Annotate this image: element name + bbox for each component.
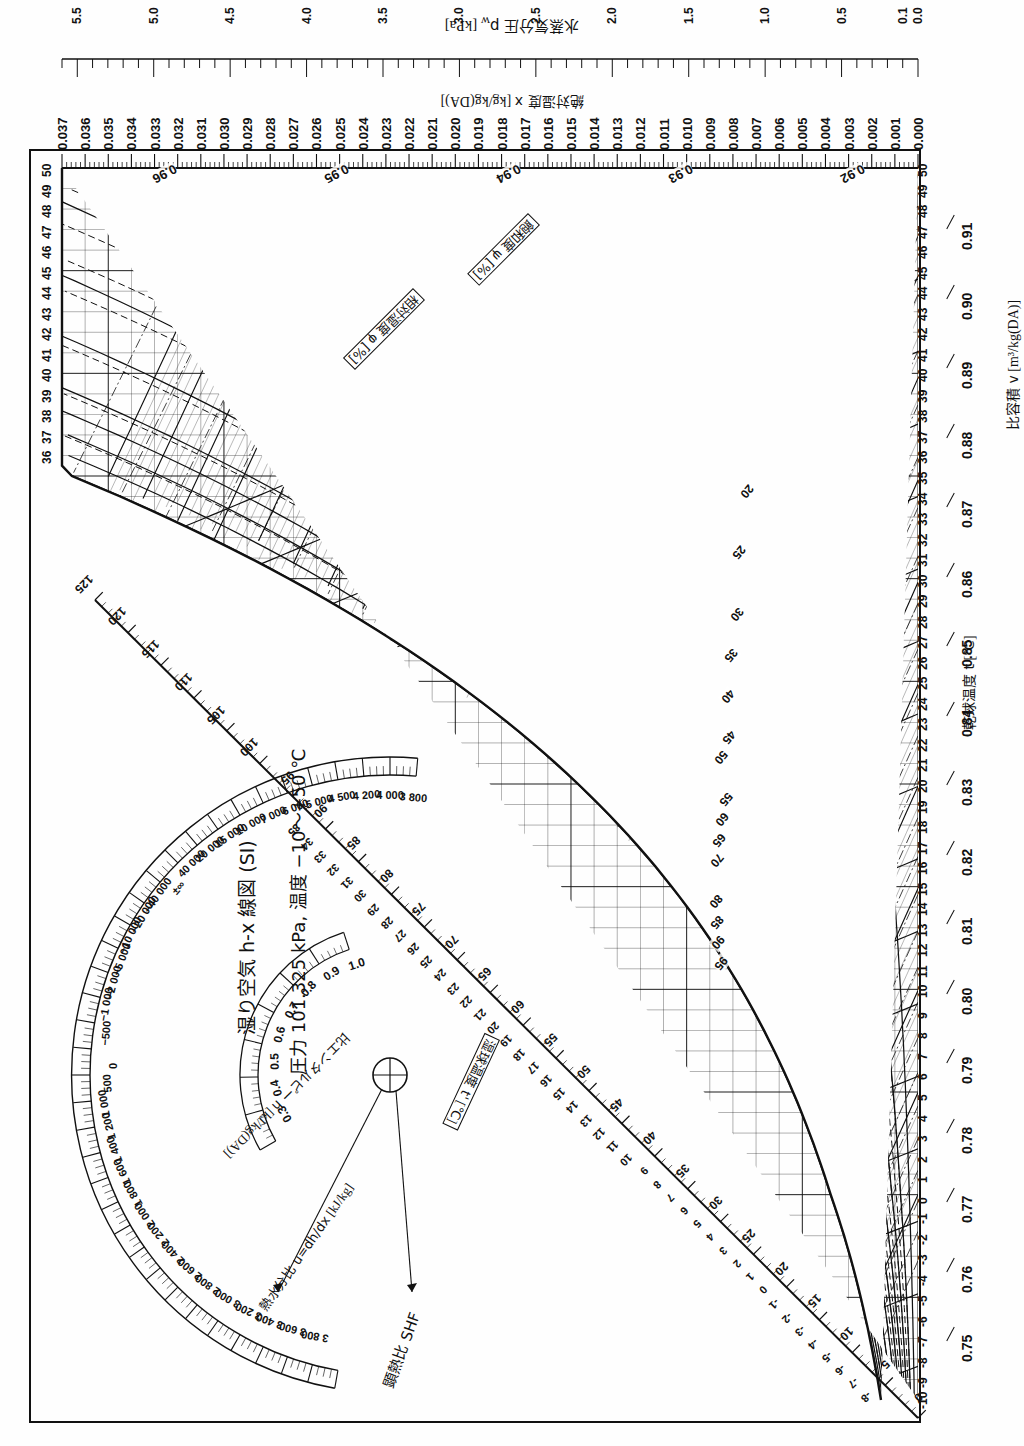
dry-bulb-tick: 34 bbox=[916, 492, 930, 505]
dry-bulb-tick-left: 37 bbox=[40, 431, 54, 444]
dry-bulb-tick-left: 36 bbox=[40, 451, 54, 464]
dry-bulb-tick: 38 bbox=[916, 410, 930, 423]
dry-bulb-tick: 1 bbox=[916, 1176, 930, 1183]
dry-bulb-tick: 12 bbox=[916, 944, 930, 957]
dry-bulb-tick: 32 bbox=[916, 533, 930, 546]
dry-bulb-tick: 4 bbox=[916, 1115, 930, 1122]
dry-bulb-tick-left: 39 bbox=[40, 390, 54, 403]
specific-volume-tick: 0.75 bbox=[959, 1335, 975, 1362]
dry-bulb-tick: -4 bbox=[916, 1275, 930, 1286]
dry-bulb-tick: 2 bbox=[916, 1156, 930, 1163]
dry-bulb-tick-left: 38 bbox=[40, 410, 54, 423]
specific-volume-tick: 0.76 bbox=[959, 1265, 975, 1292]
dry-bulb-tick: 43 bbox=[916, 307, 930, 320]
dry-bulb-tick: 8 bbox=[916, 1033, 930, 1040]
dry-bulb-tick: -3 bbox=[916, 1255, 930, 1266]
specific-volume-tick: 0.83 bbox=[959, 779, 975, 806]
dry-bulb-tick: 29 bbox=[916, 595, 930, 608]
dry-bulb-tick: 18 bbox=[916, 821, 930, 834]
dry-bulb-tick: 36 bbox=[916, 451, 930, 464]
dry-bulb-tick: -8 bbox=[916, 1357, 930, 1368]
dry-bulb-tick-left: 47 bbox=[40, 225, 54, 238]
dry-bulb-tick: 35 bbox=[916, 472, 930, 485]
dry-bulb-tick: 25 bbox=[916, 677, 930, 690]
dry-bulb-axis-title-text: 乾球温度 t bbox=[961, 664, 977, 730]
dry-bulb-tick-left: 50 bbox=[40, 164, 54, 177]
dry-bulb-tick: -6 bbox=[916, 1316, 930, 1327]
dry-bulb-tick-left: 43 bbox=[40, 307, 54, 320]
dry-bulb-tick: 21 bbox=[916, 759, 930, 772]
dry-bulb-tick: 39 bbox=[916, 390, 930, 403]
dry-bulb-tick-left: 46 bbox=[40, 246, 54, 259]
specific-volume-axis-title-text: 比容積 v bbox=[1005, 375, 1021, 430]
dry-bulb-tick-left: 49 bbox=[40, 184, 54, 197]
dry-bulb-tick-left: 42 bbox=[40, 328, 54, 341]
dry-bulb-tick: 33 bbox=[916, 513, 930, 526]
dry-bulb-tick: -5 bbox=[916, 1296, 930, 1307]
protractor-outer-tick: 0 bbox=[107, 1063, 119, 1069]
dry-bulb-tick-left: 44 bbox=[40, 287, 54, 300]
dry-bulb-tick: 17 bbox=[916, 841, 930, 854]
dry-bulb-tick: 45 bbox=[916, 266, 930, 279]
specific-volume-tick: 0.82 bbox=[959, 848, 975, 875]
protractor-outer-tick: 500 bbox=[100, 1074, 114, 1093]
dry-bulb-tick: 28 bbox=[916, 615, 930, 628]
dry-bulb-tick: 22 bbox=[916, 739, 930, 752]
dry-bulb-tick: 3 bbox=[916, 1135, 930, 1142]
specific-volume-tick: 0.80 bbox=[959, 987, 975, 1014]
dry-bulb-tick: 9 bbox=[916, 1012, 930, 1019]
dry-bulb-tick: -7 bbox=[916, 1337, 930, 1348]
dry-bulb-tick-left: 48 bbox=[40, 205, 54, 218]
specific-volume-tick: 0.91 bbox=[959, 223, 975, 250]
specific-volume-tick: 0.77 bbox=[959, 1196, 975, 1223]
chart-title-line1: 湿り空気 h-x 線図 (SI) bbox=[238, 840, 257, 1035]
dry-bulb-tick: 19 bbox=[916, 800, 930, 813]
dry-bulb-tick: 31 bbox=[916, 554, 930, 567]
dry-bulb-tick: 44 bbox=[916, 287, 930, 300]
dry-bulb-tick: 6 bbox=[916, 1074, 930, 1081]
dry-bulb-tick: 26 bbox=[916, 656, 930, 669]
dry-bulb-tick: 14 bbox=[916, 903, 930, 916]
dry-bulb-tick: 20 bbox=[916, 780, 930, 793]
dry-bulb-axis-title: 乾球温度 t [℃] bbox=[962, 635, 977, 730]
dry-bulb-tick: 48 bbox=[916, 205, 930, 218]
dry-bulb-tick: 16 bbox=[916, 862, 930, 875]
dry-bulb-tick: 13 bbox=[916, 923, 930, 936]
specific-volume-axis-title: 比容積 v [m³/kg(DA)] bbox=[1006, 300, 1021, 430]
specific-volume-tick: 0.86 bbox=[959, 570, 975, 597]
dry-bulb-tick: 15 bbox=[916, 882, 930, 895]
dry-bulb-tick: 23 bbox=[916, 718, 930, 731]
specific-volume-tick: 0.81 bbox=[959, 918, 975, 945]
psychrometric-chart-page: 水蒸気分圧 pw [kPa] 5.55.04.54.03.53.02.52.01… bbox=[0, 0, 1024, 1446]
dry-bulb-tick: 27 bbox=[916, 636, 930, 649]
dry-bulb-tick: 46 bbox=[916, 246, 930, 259]
dry-bulb-tick: 49 bbox=[916, 184, 930, 197]
dry-bulb-tick: 30 bbox=[916, 574, 930, 587]
dry-bulb-tick: 42 bbox=[916, 328, 930, 341]
dry-bulb-tick: 50 bbox=[916, 164, 930, 177]
dry-bulb-tick: -1 bbox=[916, 1214, 930, 1225]
dry-bulb-tick-left: 40 bbox=[40, 369, 54, 382]
chart-title-line1-text: 湿り空気 h-x 線図 (SI) bbox=[236, 840, 258, 1035]
dry-bulb-tick: 5 bbox=[916, 1094, 930, 1101]
specific-volume-tick: 0.90 bbox=[959, 292, 975, 319]
dry-bulb-tick-left: 45 bbox=[40, 266, 54, 279]
protractor-shf-tick: 0.5 bbox=[267, 1053, 281, 1070]
dry-bulb-tick: 0 bbox=[916, 1197, 930, 1204]
dry-bulb-tick: 41 bbox=[916, 348, 930, 361]
dry-bulb-tick: 7 bbox=[916, 1053, 930, 1060]
dry-bulb-axis-unit: [℃] bbox=[962, 635, 977, 660]
dry-bulb-tick: -2 bbox=[916, 1234, 930, 1245]
specific-volume-tick: 0.89 bbox=[959, 362, 975, 389]
specific-volume-axis-unit: [m³/kg(DA)] bbox=[1006, 300, 1021, 372]
protractor-outer-tick: −500 bbox=[99, 1020, 113, 1046]
dry-bulb-tick: 37 bbox=[916, 431, 930, 444]
dry-bulb-tick: -9 bbox=[916, 1378, 930, 1389]
specific-volume-tick: 0.78 bbox=[959, 1126, 975, 1153]
dry-bulb-tick: 40 bbox=[916, 369, 930, 382]
protractor-outer-tick: 3 800 bbox=[400, 790, 428, 804]
dry-bulb-tick-left: 41 bbox=[40, 348, 54, 361]
dry-bulb-tick: 10 bbox=[916, 985, 930, 998]
specific-volume-tick: 0.88 bbox=[959, 431, 975, 458]
specific-volume-tick: 0.87 bbox=[959, 501, 975, 528]
